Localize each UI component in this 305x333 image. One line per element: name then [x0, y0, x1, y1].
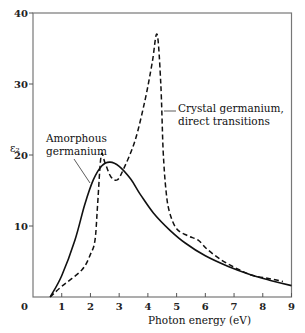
origin-label: 0 — [21, 301, 28, 312]
annotation-amorphous-line2: germanium — [46, 145, 107, 157]
x-tick-label: 4 — [144, 301, 151, 312]
x-tick-label: 8 — [259, 301, 266, 312]
chart-canvas: 123456789010203040 ε₂ Photon energy (eV)… — [0, 0, 305, 333]
annotation-amorphous-line1: Amorphous — [45, 132, 107, 144]
y-tick-label: 10 — [14, 221, 28, 232]
x-tick-label: 1 — [58, 301, 65, 312]
axis-ticks: 123456789010203040 — [14, 8, 295, 312]
x-tick-label: 2 — [87, 301, 94, 312]
x-axis-label: Photon energy (eV) — [148, 314, 251, 326]
x-tick-label: 5 — [173, 301, 180, 312]
annotation-amorphous-leader — [74, 159, 90, 183]
x-tick-label: 3 — [116, 301, 123, 312]
y-tick-label: 40 — [14, 8, 28, 19]
annotation-crystal-line1: Crystal germanium, — [178, 102, 284, 114]
y-tick-label: 30 — [14, 79, 28, 90]
x-tick-label: 7 — [231, 301, 238, 312]
data-curves — [50, 34, 291, 297]
x-tick-label: 6 — [202, 301, 209, 312]
x-tick-label: 9 — [288, 301, 295, 312]
y-axis-label: ε₂ — [10, 142, 20, 154]
amorphous-germanium-curve — [50, 162, 291, 297]
annotation-crystal-line2: direct transitions — [178, 115, 270, 127]
crystal-germanium-curve — [50, 34, 283, 297]
